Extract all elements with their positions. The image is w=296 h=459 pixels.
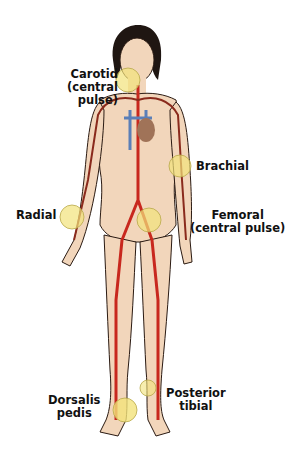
femoral-pulse-marker [137,208,161,232]
dorsalis-pedis-pulse-marker [113,398,137,422]
heart [137,118,155,142]
radial-pulse-marker [60,205,84,229]
brachial-pulse-marker [169,155,191,177]
femoral-label: Femoral (central pulse) [190,209,285,235]
brachial-label: Brachial [196,160,249,173]
carotid-pulse-marker [116,68,140,92]
posterior-tibial-label: Posterior tibial [166,387,226,413]
radial-label: Radial [16,209,57,222]
dorsalis-pedis-label: Dorsalis pedis [48,394,100,420]
carotid-label: Carotid (central pulse) [67,68,118,107]
posterior-tibial-pulse-marker [140,380,156,396]
right-arm [62,102,104,266]
